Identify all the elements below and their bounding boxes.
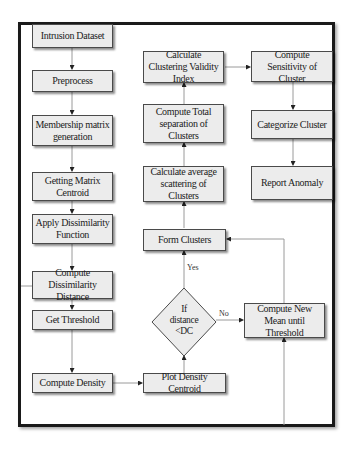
node-average-scattering: Calculate average scattering of Clusters — [143, 166, 224, 202]
node-total-separation: Compute Total separation of Clusters — [143, 104, 224, 143]
node-dissimilarity-distance: Compute Dissimilarity Distance — [32, 271, 113, 299]
edge-label-no: No — [219, 309, 229, 318]
node-preprocess: Preprocess — [32, 70, 113, 92]
node-validity-index: Calculate Clustering Validity Index — [143, 51, 224, 83]
node-intrusion-dataset: Intrusion Dataset — [32, 24, 113, 48]
decision-label: If distance <DC — [160, 304, 208, 337]
node-get-threshold: Get Threshold — [32, 310, 113, 330]
node-compute-density: Compute Density — [32, 373, 113, 393]
node-form-clusters: Form Clusters — [143, 229, 226, 251]
node-compute-sensitivity: Compute Sensitivity of Cluster — [251, 51, 333, 82]
decision-line-1: If — [160, 304, 208, 315]
node-plot-density-centroid: Plot Density Centroid — [143, 373, 226, 393]
decision-line-3: <DC — [160, 326, 208, 337]
node-membership-matrix: Membership matrix generation — [32, 115, 113, 146]
edge-label-yes: Yes — [187, 263, 199, 272]
node-categorize-cluster: Categorize Cluster — [251, 110, 333, 139]
decision-line-2: distance — [160, 315, 208, 326]
node-compute-new-mean: Compute New Mean until Threshold — [244, 303, 325, 338]
node-dissimilarity-function: Apply Dissimilarity Function — [32, 214, 113, 244]
node-matrix-centroid: Getting Matrix Centroid — [32, 172, 113, 201]
node-report-anomaly: Report Anomaly — [251, 166, 333, 200]
